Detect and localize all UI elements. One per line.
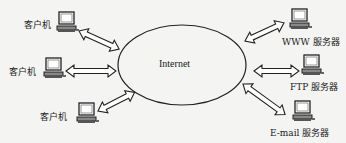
internet-diagram: Internet 客户机 客户机 客户机 WWW 服务器 FTP 服务器 E-m… xyxy=(0,0,346,143)
email-server-label: E-mail 服务器 xyxy=(270,128,329,138)
computer-icon xyxy=(302,55,324,75)
arrow-ftp-server xyxy=(254,65,299,77)
internet-label: Internet xyxy=(159,58,190,69)
client-label-2: 客户机 xyxy=(9,67,36,77)
computer-icon xyxy=(77,103,99,123)
arrow-client-2 xyxy=(66,65,116,77)
ftp-server-label: FTP 服务器 xyxy=(290,82,338,92)
computer-icon xyxy=(293,101,315,121)
www-server-label: WWW 服务器 xyxy=(282,37,340,47)
computer-icon xyxy=(44,58,66,78)
arrow-www-server xyxy=(242,17,286,46)
arrow-client-3 xyxy=(95,87,137,116)
client-label-1: 客户机 xyxy=(24,20,51,30)
arrow-client-1 xyxy=(77,26,122,55)
computer-icon xyxy=(290,9,312,29)
client-label-3: 客户机 xyxy=(40,112,67,122)
arrow-email-server xyxy=(239,79,288,119)
computer-icon xyxy=(57,12,79,32)
